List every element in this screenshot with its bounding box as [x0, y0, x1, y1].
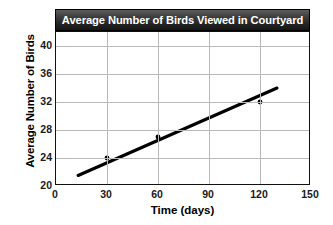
y-tick-label: 24 — [30, 151, 52, 163]
chart-figure: Average Number of Birds 202428323640 Ave… — [0, 0, 333, 225]
horizontal-gridline — [56, 46, 309, 47]
x-tick-label: 90 — [188, 188, 228, 200]
plot-area — [55, 31, 310, 185]
x-axis-title: Time (days) — [55, 204, 310, 216]
vertical-gridline — [260, 32, 261, 184]
horizontal-gridline — [56, 74, 309, 75]
plot-inner — [56, 32, 309, 184]
y-tick-label: 36 — [30, 67, 52, 79]
y-tick-label: 32 — [30, 95, 52, 107]
x-tick-label: 150 — [290, 188, 330, 200]
data-series-layer — [56, 32, 309, 184]
x-tick-label: 60 — [137, 188, 177, 200]
horizontal-gridline — [56, 130, 309, 131]
x-axis-tick-labels: 0306090120150 — [55, 188, 310, 202]
y-tick-label: 40 — [30, 39, 52, 51]
horizontal-gridline — [56, 158, 309, 159]
x-tick-label: 120 — [239, 188, 279, 200]
chart-title-bar: Average Number of Birds Viewed in Courty… — [55, 9, 310, 31]
x-tick-label: 30 — [86, 188, 126, 200]
vertical-gridline — [209, 32, 210, 184]
horizontal-gridline — [56, 102, 309, 103]
chart-title: Average Number of Birds Viewed in Courty… — [62, 14, 303, 26]
vertical-gridline — [107, 32, 108, 184]
vertical-gridline — [158, 32, 159, 184]
y-tick-label: 28 — [30, 123, 52, 135]
x-tick-label: 0 — [35, 188, 75, 200]
